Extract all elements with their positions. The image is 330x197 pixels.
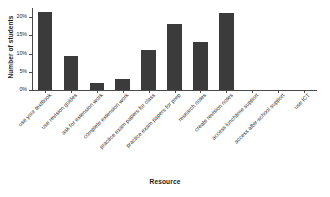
y-axis-tick-label: 5%	[19, 68, 27, 74]
y-axis-tick: 20%	[29, 17, 32, 18]
x-axis-category-label: access lunchtime support	[211, 92, 260, 141]
y-axis-tick-label: 10%	[17, 50, 28, 56]
y-axis-tick-label: 20%	[17, 13, 28, 19]
plot-area: 0%5%10%15%20%	[32, 8, 317, 90]
y-axis-tick-label: 15%	[17, 31, 28, 37]
x-axis-category-label: complete extension work	[82, 92, 130, 140]
bar	[115, 79, 130, 90]
x-axis-title: Resource	[0, 178, 330, 185]
bar	[38, 12, 53, 90]
bar	[193, 42, 208, 90]
bar	[64, 56, 79, 90]
x-axis-category-label: practice exam papers for prep	[125, 92, 182, 149]
bar	[167, 24, 182, 90]
bar	[141, 50, 156, 90]
y-axis-title-wrap: Number of students	[0, 22, 12, 94]
chart-title-clipped	[14, 0, 314, 4]
bar-chart-figure: Number of students 0%5%10%15%20% Resourc…	[0, 0, 330, 197]
y-axis-tick-label: 0%	[19, 86, 27, 92]
y-axis-line	[32, 8, 33, 90]
x-axis-category-label: access after-school support	[233, 92, 286, 145]
y-axis-tick: 10%	[29, 54, 32, 55]
y-axis-tick: 0%	[29, 90, 32, 91]
y-axis-title: Number of students	[7, 7, 17, 87]
x-axis-category-label: use ICT	[293, 92, 311, 110]
y-axis-tick: 15%	[29, 35, 32, 36]
y-axis-tick: 5%	[29, 72, 32, 73]
bar	[219, 13, 234, 90]
